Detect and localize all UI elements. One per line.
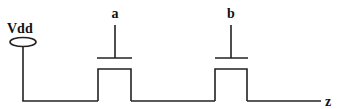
vdd-label: Vdd <box>7 21 33 36</box>
transistor-b: b <box>215 6 248 101</box>
vdd-terminal-icon <box>10 38 36 47</box>
gate-label-a: a <box>112 6 119 21</box>
transistor-b-channel <box>215 69 247 101</box>
vdd-supply: Vdd <box>7 21 36 101</box>
circuit-diagram: Vdd a b z <box>0 0 346 109</box>
transistor-a-channel <box>98 69 131 101</box>
transistor-a: a <box>97 6 132 101</box>
gate-label-b: b <box>227 6 235 21</box>
output-label-z: z <box>325 94 331 109</box>
